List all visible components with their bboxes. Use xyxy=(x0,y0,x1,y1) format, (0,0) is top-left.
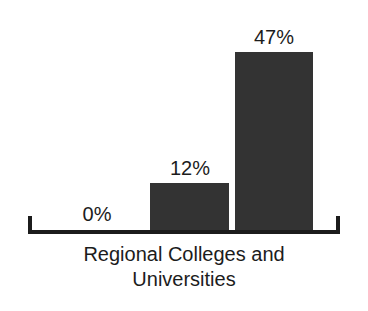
bar-1 xyxy=(150,183,229,230)
x-axis-caption-line-1: Regional Colleges and xyxy=(0,242,368,267)
bar-value-label-2: 47% xyxy=(239,26,309,49)
axis-baseline xyxy=(28,230,340,234)
x-axis-caption-line-2: Universities xyxy=(0,267,368,292)
bar-2 xyxy=(235,52,313,230)
bar-value-label-0: 0% xyxy=(62,203,132,226)
bar-chart: 0% 12% 47% Regional Colleges and Univers… xyxy=(0,0,368,311)
axis-tick-left xyxy=(28,216,32,234)
bar-value-label-1: 12% xyxy=(155,157,225,180)
plot-area: 0% 12% 47% xyxy=(0,0,368,240)
axis-tick-right xyxy=(336,216,340,234)
